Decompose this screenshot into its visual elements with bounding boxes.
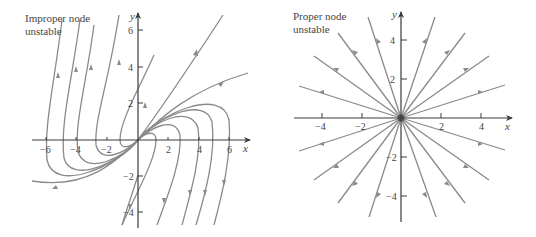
- proper-node-plot: −4 −2 2 4 4 2 −2 −4 x y Proper node unst…: [293, 8, 512, 222]
- plot-subtitle: unstable: [293, 23, 330, 35]
- trajectory: [77, 25, 138, 164]
- x-tick-label: 4: [197, 144, 202, 155]
- trajectory: [138, 15, 223, 140]
- y-tick-label: −4: [386, 191, 397, 202]
- x-tick-label: −4: [70, 144, 81, 155]
- x-axis-label: x: [504, 120, 510, 132]
- plot-subtitle: unstable: [25, 25, 62, 37]
- y-tick-label: −2: [386, 152, 397, 163]
- y-tick-label: −4: [123, 207, 134, 218]
- trajectory: [369, 118, 401, 217]
- y-tick-label: −2: [123, 171, 134, 182]
- trajectory: [401, 85, 505, 118]
- x-tick-label: −2: [101, 144, 112, 155]
- trajectory: [401, 118, 505, 150]
- phase-portraits: −6 −4 −2 2 4 6 6 4 2 −2 −4 x y Improper …: [0, 0, 536, 237]
- trajectory: [401, 118, 465, 203]
- trajectory: [138, 104, 230, 225]
- improper-node-trajectories: [32, 15, 248, 225]
- trajectory: [299, 86, 401, 118]
- trajectory: [96, 15, 138, 155]
- trajectory: [401, 118, 436, 217]
- y-axis-label: y: [129, 10, 135, 22]
- trajectory: [401, 56, 489, 118]
- trajectory: [401, 33, 465, 118]
- x-tick-label: 6: [227, 144, 232, 155]
- x-axis-label: x: [242, 142, 248, 154]
- improper-node-plot: −6 −4 −2 2 4 6 6 4 2 −2 −4 x y Improper …: [25, 10, 250, 228]
- trajectory: [401, 17, 435, 118]
- x-tick-label: 4: [479, 121, 484, 132]
- y-tick-label: 4: [390, 35, 395, 46]
- trajectory: [368, 17, 401, 118]
- y-tick-label: 2: [128, 98, 133, 109]
- trajectory: [401, 118, 489, 180]
- y-axis-label: y: [391, 8, 397, 20]
- y-tick-label: 4: [128, 62, 133, 73]
- y-tick-label: 2: [390, 74, 395, 85]
- x-tick-label: −4: [315, 121, 326, 132]
- plot-title: Proper node: [293, 10, 347, 22]
- x-tick-label: −6: [40, 144, 51, 155]
- x-tick-label: 2: [166, 144, 171, 155]
- plot-title: Improper node: [25, 12, 90, 24]
- trajectory: [314, 56, 401, 118]
- y-tick-label: 6: [128, 25, 133, 36]
- x-tick-label: 2: [439, 121, 444, 132]
- x-tick-label: −2: [355, 121, 366, 132]
